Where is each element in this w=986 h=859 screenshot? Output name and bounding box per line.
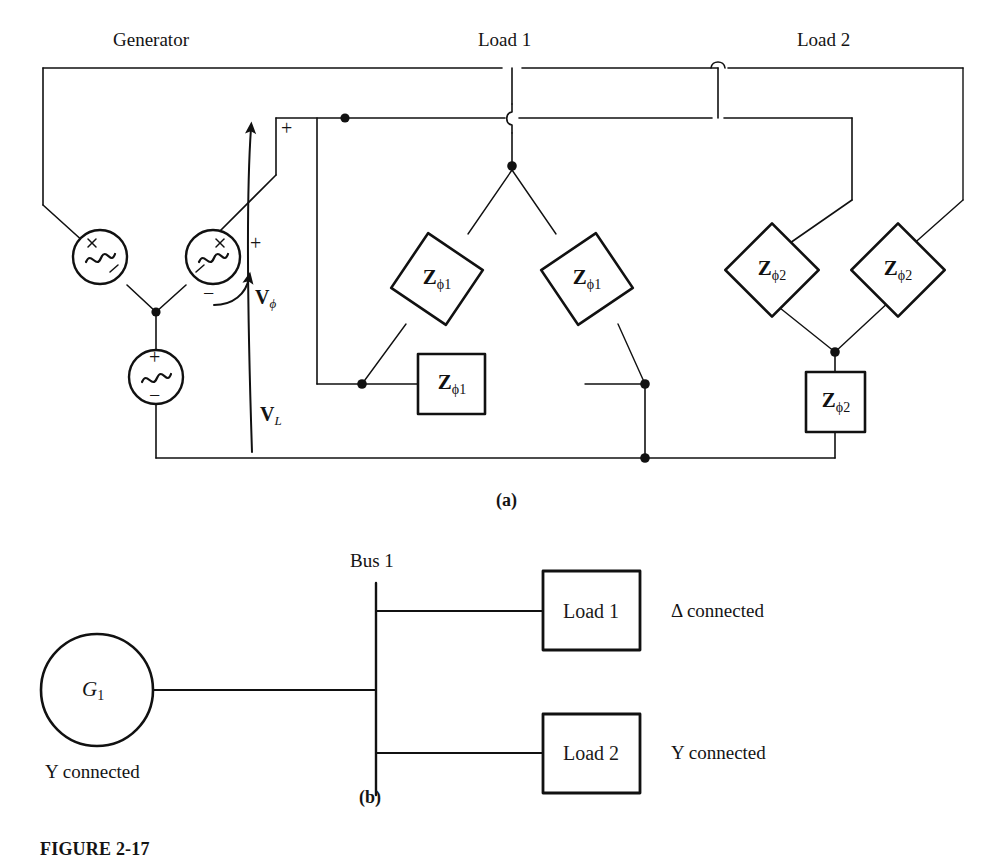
generator-symbol-letter: G [82,677,97,701]
z-symbol: Z [438,370,452,394]
caption-b: (b) [359,788,381,806]
wire-hop-up [711,62,725,68]
z-subscript: ϕ2 [772,268,786,283]
oneline-generator-connection-note: Y connected [45,762,140,781]
z-subscript: ϕ2 [836,400,850,415]
junction-dot-wye-neutral [830,347,840,357]
section-label-load1: Load 1 [478,30,531,49]
section-label-load2: Load 2 [797,30,850,49]
z-subscript: ϕ1 [587,277,601,292]
oneline-load1-box-label: Load 1 [563,600,619,623]
middle-rail-wire [208,118,852,243]
load2-impedance-bottom-label: Zϕ2 [822,388,850,415]
line-voltage-subscript: L [274,413,281,428]
load1-left-feed-wire [317,118,362,384]
generator-symbol-subscript: 1 [97,688,104,703]
phase-voltage-label: Vϕ [255,287,276,310]
generator-bottom-minus-sign: − [149,385,160,405]
load1-impedance-bottom-label: Zϕ1 [438,370,466,397]
figure-number: FIGURE 2-17 [40,840,150,858]
generator-bottom-plus-sign: + [149,347,160,367]
v-line-arrow [248,128,252,452]
z-symbol: Z [822,388,836,412]
caption-a: (a) [496,491,517,509]
bus-label: Bus 1 [350,551,394,570]
load2-impedance-left-label: Zϕ2 [758,256,786,283]
junction-dot-delta-right [640,379,650,389]
load1-impedance-right-label: Zϕ1 [573,265,601,292]
z-symbol: Z [423,265,437,289]
z-symbol: Z [573,265,587,289]
line-voltage-symbol: V [260,403,274,425]
junction-dot-generator-neutral [151,307,160,316]
oneline-load2-connection-note: Y connected [671,743,766,762]
z-symbol: Z [884,256,898,280]
z-symbol: Z [758,256,772,280]
generator-source-left [73,230,127,284]
bottom-rail-wire [156,312,835,458]
load2-impedance-right-label: Zϕ2 [884,256,912,283]
line-voltage-plus-sign: + [281,118,292,138]
phase-voltage-symbol: V [255,286,269,308]
junction-dot-delta-apex [507,161,517,171]
wire-hop-left [507,104,512,133]
top-rail-wire [43,68,963,243]
generator-polarity-plus-sign: + [250,233,261,253]
generator-polarity-minus-sign: − [203,283,214,303]
z-subscript: ϕ1 [452,382,466,397]
z-subscript: ϕ2 [898,268,912,283]
junction-dot-delta-left [357,379,367,389]
oneline-load1-connection-note: Δ connected [671,601,764,620]
z-subscript: ϕ1 [437,277,451,292]
generator-source-right [186,230,240,284]
junction-dot-bottom-rail-load1 [640,453,650,463]
oneline-load2-box-label: Load 2 [563,742,619,765]
line-voltage-label: VL [260,404,282,427]
phase-voltage-subscript: ϕ [269,296,276,311]
junction-dot-middle-rail [340,113,349,122]
oneline-generator-label: G1 [82,679,104,703]
section-label-generator: Generator [113,30,189,49]
load1-impedance-left-label: Zϕ1 [423,265,451,292]
load2-wye-wires [770,68,963,352]
